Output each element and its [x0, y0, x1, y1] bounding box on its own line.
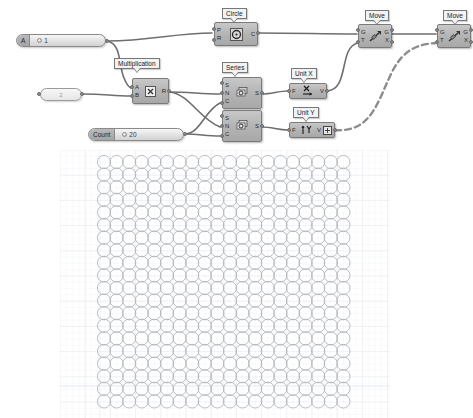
series2-output-s-nub[interactable]: [260, 124, 264, 128]
unit-y-label-bubble: Unit Y: [293, 107, 319, 118]
move-1-inputs: G T: [359, 25, 366, 47]
port-t[interactable]: T: [440, 36, 444, 44]
move2-output-x-nub[interactable]: [469, 40, 473, 44]
wire-count-to-series1-c: [185, 103, 220, 134]
series1-output-s-nub[interactable]: [260, 91, 264, 95]
wire-count-to-series2-c: [185, 134, 220, 136]
panel-two-value: 2: [59, 92, 62, 98]
port-v[interactable]: V: [320, 87, 324, 95]
wire-circle-to-move1-g: [259, 33, 357, 34]
move1-input-g-nub[interactable]: [356, 28, 360, 32]
slider-a-label: A: [17, 35, 30, 46]
mult-input-b-nub[interactable]: [130, 94, 134, 98]
series1-input-n-nub[interactable]: [220, 91, 224, 95]
move-icon: [445, 30, 464, 43]
unit-y-component[interactable]: F V: [289, 122, 335, 138]
port-v[interactable]: V: [317, 126, 321, 134]
unitx-input-f-nub[interactable]: [287, 89, 291, 93]
slider-count-value: 20: [129, 131, 136, 138]
port-r[interactable]: R: [162, 87, 166, 95]
wire-a-to-circle-p: [107, 33, 212, 41]
circle-input-r-nub[interactable]: [212, 38, 216, 42]
circle-array: [60, 150, 390, 418]
wire-unitx-to-move1-t: [327, 43, 357, 91]
port-s-out[interactable]: S: [255, 122, 259, 130]
wire-series2-to-unity: [262, 127, 288, 130]
circle-label-bubble: Circle: [222, 8, 247, 19]
slider-count-value-area[interactable]: 20: [115, 129, 183, 140]
wire-series1-to-unitx: [262, 91, 288, 94]
wire-unity-to-move2-t: [335, 43, 436, 130]
slider-a-value: 1: [44, 37, 48, 44]
series-component-1[interactable]: S N C S: [222, 77, 262, 109]
slider-count-output-nub[interactable]: [183, 132, 187, 136]
slider-count-label: Count: [89, 129, 115, 140]
multiply-icon: [139, 86, 162, 97]
series2-input-c-nub[interactable]: [220, 134, 224, 138]
mult-output-r-nub[interactable]: [167, 89, 171, 93]
series2-input-n-nub[interactable]: [220, 124, 224, 128]
unit-x-label-bubble: Unit X: [291, 68, 317, 79]
move1-output-x-nub[interactable]: [390, 40, 394, 44]
slider-knob-icon[interactable]: [37, 38, 42, 43]
panel-two[interactable]: 2: [40, 88, 82, 101]
unit-y-icon: [296, 124, 317, 136]
port-x-out[interactable]: X: [385, 36, 389, 44]
wire-mult-to-series1-n: [169, 92, 220, 94]
slider-knob-icon[interactable]: [122, 132, 127, 137]
wire-two-to-mult-b: [83, 94, 131, 96]
panel-two-output-nub[interactable]: [80, 92, 84, 96]
move2-output-g-nub[interactable]: [469, 28, 473, 32]
unit-x-component[interactable]: F V: [289, 83, 327, 99]
port-t[interactable]: T: [361, 36, 365, 44]
circle-component[interactable]: P R C: [214, 22, 258, 46]
move2-input-g-nub[interactable]: [435, 28, 439, 32]
move-2-inputs: G T: [438, 25, 445, 47]
move2-input-t-nub[interactable]: [435, 40, 439, 44]
series1-input-c-nub[interactable]: [220, 101, 224, 105]
panel-two-input-nub[interactable]: [37, 92, 41, 96]
series-icon: [229, 120, 255, 133]
port-g-out[interactable]: G: [463, 28, 468, 36]
move-component-1[interactable]: G T G X: [358, 24, 392, 48]
move-component-2[interactable]: G T G X: [437, 24, 471, 48]
move-icon: [366, 30, 385, 43]
slider-a[interactable]: A 1: [16, 34, 106, 47]
port-x-out[interactable]: X: [464, 36, 468, 44]
series-icon: [229, 87, 255, 100]
slider-count[interactable]: Count 20: [88, 128, 184, 141]
slider-a-output-nub[interactable]: [105, 39, 109, 43]
unit-x-icon: [296, 85, 320, 97]
series-label-bubble: Series: [222, 62, 248, 73]
series-component-2[interactable]: S N C S: [222, 110, 262, 142]
move1-output-g-nub[interactable]: [390, 28, 394, 32]
unity-input-f-nub[interactable]: [287, 128, 291, 132]
series2-input-s-nub[interactable]: [220, 114, 224, 118]
circle-input-p-nub[interactable]: [212, 27, 216, 31]
wire-mult-to-series2-n: [169, 92, 220, 127]
port-c[interactable]: C: [251, 30, 255, 38]
move1-input-t-nub[interactable]: [356, 40, 360, 44]
port-g-out[interactable]: G: [384, 28, 389, 36]
circle-output-c-nub[interactable]: [256, 31, 260, 35]
unity-output-v-nub[interactable]: [333, 128, 337, 132]
multiplication-component[interactable]: A B R: [132, 78, 169, 104]
move-2-label-bubble: Move: [443, 10, 467, 21]
port-s-out[interactable]: S: [255, 89, 259, 97]
move-1-label-bubble: Move: [365, 10, 389, 21]
mult-input-a-nub[interactable]: [130, 85, 134, 89]
unitx-output-v-nub[interactable]: [325, 89, 329, 93]
multiplication-label-bubble: Multiplication: [114, 58, 160, 69]
series1-input-s-nub[interactable]: [220, 81, 224, 85]
circle-component-icon: [221, 28, 250, 41]
circle-grid-preview[interactable]: [60, 150, 390, 418]
slider-a-value-area[interactable]: 1: [30, 35, 105, 46]
